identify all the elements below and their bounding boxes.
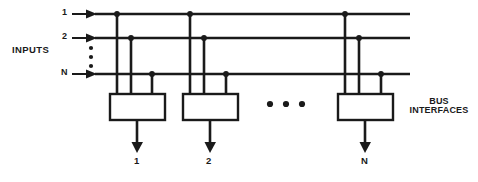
bus-tap-group-n [342, 11, 384, 94]
bus-interfaces-label-line2: INTERFACES [404, 106, 474, 115]
bus-interface-box-2 [183, 94, 238, 120]
bus-interface-box-1 [110, 94, 165, 120]
output-arrow-n [360, 120, 372, 153]
diagram-canvas [0, 0, 478, 182]
input-arrow-1 [72, 10, 97, 19]
bus-interface-box-n [338, 94, 393, 120]
input-arrow-n [72, 70, 97, 79]
boxes-horizontal-ellipsis-icon [267, 101, 305, 107]
input-arrow-2 [72, 34, 97, 43]
input-label-n: N [61, 68, 68, 77]
bus-interface-diagram: 1 2 N INPUTS 1 2 N BUS INTERFACES [0, 0, 478, 182]
input-label-2: 2 [62, 32, 67, 41]
output-label-n: N [361, 156, 368, 166]
output-arrow-1 [132, 120, 144, 153]
output-arrow-2 [205, 120, 217, 153]
output-label-1: 1 [134, 156, 139, 166]
bus-tap-group-1 [114, 11, 155, 94]
output-label-2: 2 [206, 156, 211, 166]
bus-tap-group-2 [187, 11, 229, 94]
inputs-group-label: INPUTS [12, 45, 49, 55]
bus-interfaces-label: BUS INTERFACES [404, 97, 474, 116]
input-vertical-ellipsis-icon [89, 46, 93, 68]
input-label-1: 1 [62, 8, 67, 17]
